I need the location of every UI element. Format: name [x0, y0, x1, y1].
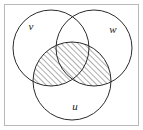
set-label-u: u [72, 100, 78, 112]
set-label-v: v [29, 20, 34, 32]
venn-diagram-canvas: v w u [0, 0, 143, 130]
set-label-w: w [109, 23, 117, 35]
venn-diagram-figure: v w u [0, 0, 143, 130]
